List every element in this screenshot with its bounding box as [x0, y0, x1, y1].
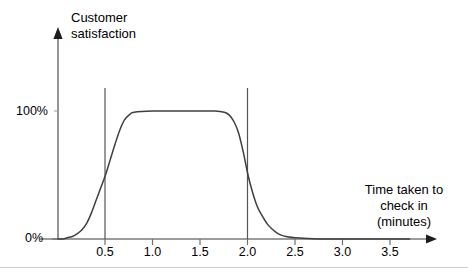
x-tick-label-1-5: 1.5: [180, 245, 220, 259]
x-axis-title-line-1: Time taken to: [365, 182, 443, 197]
x-tick-label-3-0: 3.0: [323, 245, 363, 259]
x-axis-title-line-3: (minutes): [377, 214, 431, 229]
x-axis-arrowhead-icon: [426, 235, 437, 244]
y-axis-ticks: [52, 111, 58, 239]
x-tick-label-0-5: 0.5: [85, 245, 125, 259]
x-axis-title-line-2: check in: [380, 198, 428, 213]
y-axis-title-line-1: Customer: [71, 10, 127, 25]
x-tick-label-2-5: 2.5: [275, 245, 315, 259]
y-axis-title-line-2: satisfaction: [71, 26, 136, 41]
y-axis-arrowhead-icon: [53, 27, 62, 39]
bottom-divider: [0, 267, 468, 268]
y-axis-title: Customersatisfaction: [71, 10, 136, 42]
x-tick-label-3-5: 3.5: [370, 245, 410, 259]
y-tick-label-100: 100%: [16, 104, 48, 119]
y-tick-label-0: 0%: [25, 231, 43, 246]
customer-satisfaction-chart: Customersatisfaction Time taken tocheck …: [0, 0, 468, 275]
x-axis-title: Time taken tocheck in(minutes): [348, 182, 460, 230]
x-tick-label-2-0: 2.0: [228, 245, 268, 259]
x-tick-label-1-0: 1.0: [133, 245, 173, 259]
